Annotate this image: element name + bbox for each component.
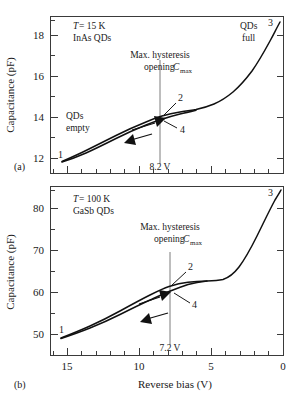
panel-b: 80 70 60 50 15 10 5 0 xyxy=(4,186,286,391)
panel-a-state-empty-line1: QDs xyxy=(66,111,84,121)
panel-a-temperature-value: = 15 K xyxy=(79,21,106,31)
panel-b-y-axis-title: Capacitance (pF) xyxy=(4,234,17,310)
panel-a-cmax-symbol: C xyxy=(173,62,180,72)
panel-b-arrow-lower xyxy=(140,313,168,324)
capacitance-hysteresis-figure: 18 16 14 12 xyxy=(0,0,298,396)
panel-b-ytick-label: 70 xyxy=(33,244,45,256)
panel-b-material-label: GaSb QDs xyxy=(73,206,114,216)
panel-b-temperature-value: = 100 K xyxy=(79,194,110,204)
panel-a-arrow-lower xyxy=(124,134,152,145)
panel-a-cmax-subscript: max xyxy=(180,67,193,75)
panel-a-ytick-label: 14 xyxy=(33,111,45,123)
panel-b-curve-label-1: 1 xyxy=(59,324,64,335)
panel-a-ytick-label: 12 xyxy=(33,152,44,164)
panel-b-cmax-annotation-line2: opening xyxy=(154,234,185,244)
panel-b-y-axis: 80 70 60 50 xyxy=(33,190,283,340)
panel-a-y-axis-title: Capacitance (pF) xyxy=(4,57,17,133)
panel-b-curve-label-2: 2 xyxy=(188,261,193,272)
panel-b-ytick-label: 60 xyxy=(33,286,45,298)
arrowhead-icon xyxy=(140,313,152,324)
panel-a-leader-4 xyxy=(164,121,177,128)
panel-a-cmax-annotation-line1: Max. hysteresis xyxy=(130,50,190,60)
xtick-label: 5 xyxy=(208,360,214,372)
xtick-label: 0 xyxy=(280,360,286,372)
panel-b-curve-label-3: 3 xyxy=(268,187,273,198)
panel-b-leader-4 xyxy=(174,293,190,303)
panel-a-curve-label-3: 3 xyxy=(268,17,273,28)
panel-a-state-empty-line2: empty xyxy=(66,123,90,133)
panel-a: 18 16 14 12 xyxy=(4,16,283,173)
panel-a-curve-label-4: 4 xyxy=(180,124,185,135)
figure-container: 18 16 14 12 xyxy=(0,0,298,396)
panel-a-cmax-annotation-line2: opening xyxy=(144,62,175,72)
panel-a-state-full-line1: QDs xyxy=(240,21,258,31)
panel-b-marker-voltage: 7.2 V xyxy=(160,343,181,353)
xtick-label: 15 xyxy=(62,360,74,372)
panel-b-ytick-label: 50 xyxy=(33,328,45,340)
panel-a-ytick-label: 18 xyxy=(33,29,45,41)
panel-b-cmax-subscript: max xyxy=(190,239,203,247)
panel-b-label: (b) xyxy=(14,379,26,391)
panel-a-curve-label-2: 2 xyxy=(178,92,183,103)
panel-a-ytick-label: 16 xyxy=(33,70,45,82)
panel-a-state-full-line2: full xyxy=(242,33,256,43)
x-axis-title: Reverse bias (V) xyxy=(138,378,212,391)
panel-b-cmax-annotation-line1: Max. hysteresis xyxy=(140,222,200,232)
panel-a-marker-voltage: 8.2 V xyxy=(150,162,171,172)
panel-b-cmax-symbol: C xyxy=(183,234,190,244)
panel-b-ytick-label: 80 xyxy=(33,202,45,214)
panel-a-material-label: InAs QDs xyxy=(73,33,112,43)
panel-a-curve-label-1: 1 xyxy=(58,149,63,160)
xtick-label: 10 xyxy=(134,360,146,372)
arrowhead-icon xyxy=(124,134,136,145)
panel-b-curve-label-4: 4 xyxy=(192,299,197,310)
panel-a-label: (a) xyxy=(14,161,25,173)
